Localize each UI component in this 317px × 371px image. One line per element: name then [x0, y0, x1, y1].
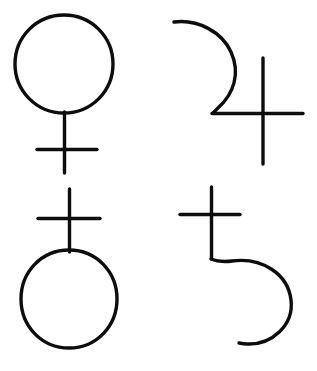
symbol-sheet: Venus (female) symbol Jupiter symbol Cro… — [0, 0, 317, 371]
symbol-canvas: Venus (female) symbol Jupiter symbol Cro… — [0, 0, 317, 371]
canvas-background — [0, 0, 317, 371]
